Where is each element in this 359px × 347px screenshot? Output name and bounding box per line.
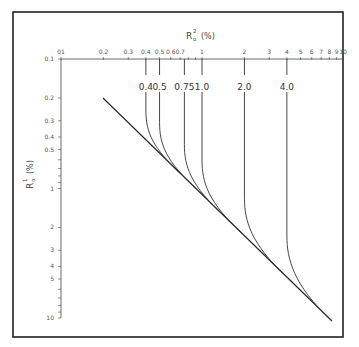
y-tick-label: 0.4 — [44, 133, 54, 140]
svg-text:R: R — [186, 31, 192, 41]
x-tick-label: 0.5 — [155, 48, 165, 55]
x-tick-label: 6 — [310, 48, 314, 55]
x-tick-label: 0.2 — [99, 48, 109, 55]
y-tick-label: 0.1 — [44, 55, 54, 62]
svg-text:R: R — [25, 183, 35, 189]
y-tick-label: 0.3 — [44, 117, 54, 124]
curve-label: 0.5 — [152, 82, 166, 92]
curve-4-0 — [287, 82, 332, 321]
curve-0-4 — [146, 82, 184, 177]
svg-text:o: o — [30, 178, 36, 182]
x-tick-label: 3 — [267, 48, 271, 55]
curve-label: 0.75 — [174, 82, 194, 92]
x-tick-label: 1 — [200, 48, 204, 55]
x-axis-title: R 2 o (%) — [186, 28, 215, 42]
x-tick-label: 2 — [243, 48, 247, 55]
svg-text:(%): (%) — [201, 32, 215, 41]
curve-label: 4.0 — [280, 82, 295, 92]
curves — [103, 59, 332, 321]
y-axis-title: R 1 o (%) — [22, 160, 36, 189]
x-tick-label: 9 — [335, 48, 339, 55]
chart-figure: R 2 o (%) R 1 o (%) 010.20.30.40.50.60.7… — [0, 0, 359, 347]
svg-text:1: 1 — [22, 179, 28, 183]
curve-0-5 — [160, 82, 198, 191]
y-tick-label: 10 — [46, 314, 54, 321]
svg-text:(%): (%) — [26, 160, 35, 174]
x-tick-label: 0.6 — [166, 48, 176, 55]
curve-2-0 — [244, 82, 287, 277]
x-tick-label: 8 — [327, 48, 331, 55]
x-tick-label: 0.4 — [141, 48, 151, 55]
x-tick-label: 7 — [319, 48, 323, 55]
y-tick-label: 0.5 — [44, 146, 54, 153]
x-tick-label: 0.7 — [175, 48, 185, 55]
x-tick-label: 01 — [57, 48, 65, 55]
y-tick-label: 4 — [50, 262, 54, 269]
y-tick-label: 2 — [50, 223, 54, 230]
curve-label: 2.0 — [237, 82, 252, 92]
curve-0-75 — [184, 82, 224, 216]
curve-1-0 — [202, 82, 243, 234]
y-tick-label: 1 — [50, 185, 54, 192]
x-tick-label: 4 — [285, 48, 289, 55]
curve-label: 0.4 — [139, 82, 154, 92]
curve-labels: 0.40.50.751.02.04.0 — [139, 82, 295, 92]
svg-text:2: 2 — [193, 28, 197, 34]
curve-label: 1.0 — [195, 82, 210, 92]
svg-text:o: o — [193, 36, 197, 42]
figure-frame — [13, 12, 343, 337]
y-tick-label: 0.2 — [44, 94, 54, 101]
x-tick-label: 0.3 — [124, 48, 134, 55]
y-tick-label: 5 — [50, 275, 54, 282]
x-tick-label: 5 — [299, 48, 303, 55]
x-tick-label: 10 — [339, 48, 347, 55]
y-tick-label: 3 — [50, 246, 54, 253]
